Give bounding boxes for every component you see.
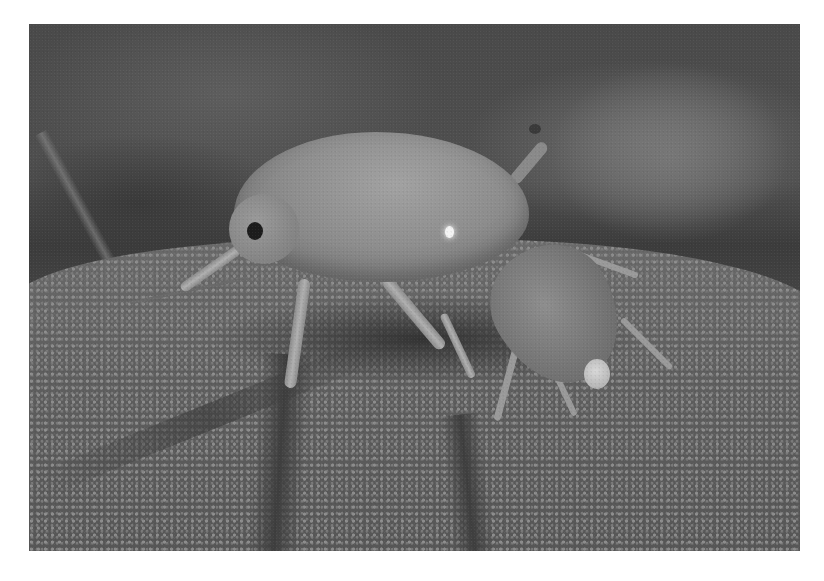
photo-aphid-on-leaf <box>29 24 800 551</box>
leaf-surface <box>29 239 800 551</box>
aphid-siphunculus-tip <box>529 124 541 134</box>
aphid-head <box>229 194 299 264</box>
aphid-nymph-tail <box>584 359 610 389</box>
aphid-eye <box>247 222 263 240</box>
background-blur <box>549 64 789 244</box>
aphid-highlight <box>445 226 454 238</box>
